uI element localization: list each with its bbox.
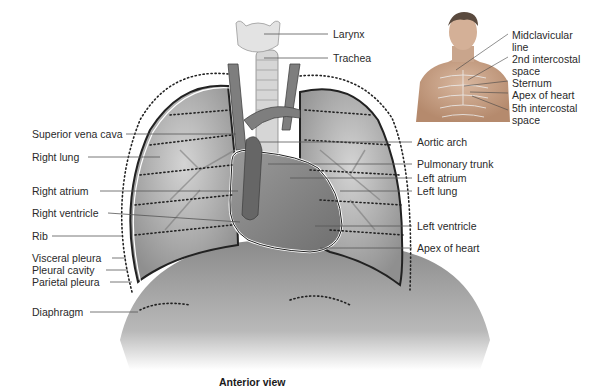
label-larynx: Larynx — [333, 28, 365, 40]
label-left-atrium: Left atrium — [417, 172, 467, 184]
label-rib: Rib — [32, 230, 48, 242]
label-trachea: Trachea — [333, 52, 371, 64]
inset-torso-illustration — [416, 12, 510, 122]
inset-label-space-2: space — [512, 114, 540, 126]
inset-label-space-1: space — [512, 65, 540, 77]
label-diaphragm: Diaphragm — [32, 306, 83, 318]
label-aortic-arch: Aortic arch — [417, 136, 467, 148]
label-left-lung: Left lung — [417, 185, 457, 197]
label-left-ventricle: Left ventricle — [417, 220, 477, 232]
label-parietal-pleura: Parietal pleura — [32, 276, 100, 288]
label-pleural-cavity: Pleural cavity — [32, 264, 94, 276]
label-right-ventricle: Right ventricle — [32, 207, 99, 219]
label-apex-of-heart: Apex of heart — [417, 242, 479, 254]
label-superior-vena-cava: Superior vena cava — [32, 128, 122, 140]
label-right-lung: Right lung — [32, 151, 79, 163]
inset-label-midclavicular: Midclavicular — [512, 29, 573, 41]
inset-label-apex-of-heart: Apex of heart — [512, 89, 574, 101]
inset-label-5th-intercostal: 5th intercostal — [512, 102, 577, 114]
inset-label-line: line — [512, 41, 528, 53]
inset-label-sternum: Sternum — [512, 77, 552, 89]
larynx — [236, 21, 280, 52]
label-visceral-pleura: Visceral pleura — [32, 252, 101, 264]
label-pulmonary-trunk: Pulmonary trunk — [417, 158, 493, 170]
inset-label-2nd-intercostal: 2nd intercostal — [512, 53, 580, 65]
label-right-atrium: Right atrium — [32, 185, 89, 197]
figure-caption: Anterior view — [219, 376, 286, 388]
